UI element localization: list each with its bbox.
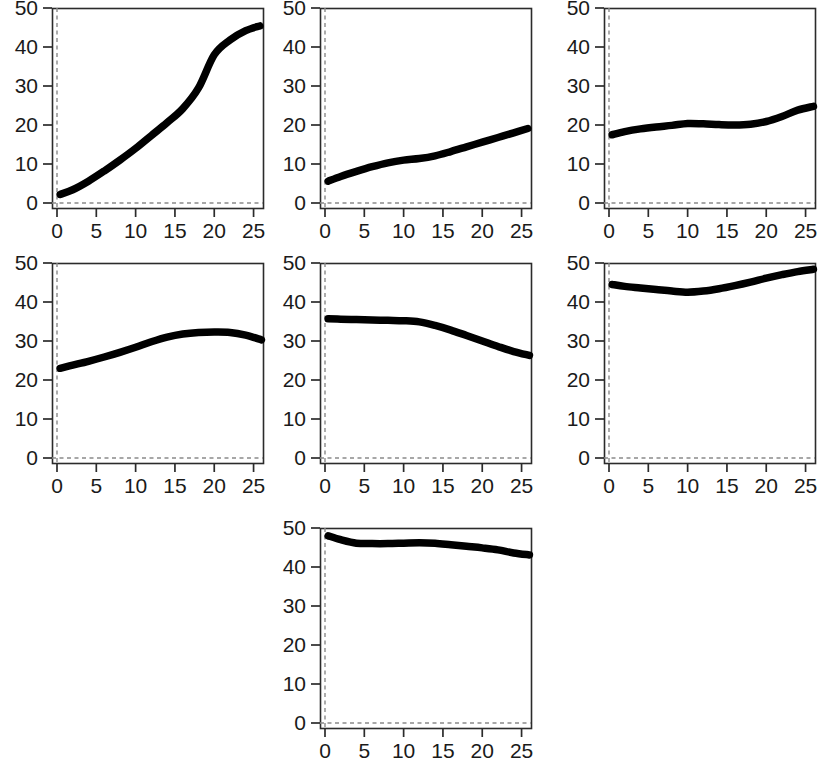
y-tick-label: 40	[15, 290, 38, 313]
y-tick-label: 10	[283, 407, 306, 430]
x-tick-label: 5	[90, 219, 102, 242]
x-tick-label: 10	[676, 219, 699, 242]
y-tick-label: 0	[294, 711, 306, 734]
x-tick-label: 5	[642, 474, 654, 497]
y-tick-label: 20	[283, 633, 306, 656]
plot-frame	[321, 264, 532, 464]
chart-panel-2: 010203040500510152025	[268, 0, 542, 250]
chart-panel-5: 010203040500510152025	[268, 255, 542, 505]
data-curve	[328, 536, 529, 555]
data-curve	[612, 269, 813, 292]
x-tick-label: 20	[203, 219, 226, 242]
y-tick-label: 20	[283, 368, 306, 391]
chart-panel-4: 010203040500510152025	[0, 255, 274, 505]
x-tick-label: 0	[603, 474, 615, 497]
data-curve	[612, 106, 813, 134]
data-curve	[328, 319, 529, 356]
y-tick-label: 20	[283, 113, 306, 136]
plot-frame	[321, 9, 532, 209]
x-tick-label: 20	[471, 474, 494, 497]
x-tick-label: 10	[124, 219, 147, 242]
y-tick-label: 20	[15, 368, 38, 391]
x-tick-label: 15	[431, 474, 454, 497]
y-tick-label: 30	[15, 329, 38, 352]
x-tick-label: 25	[794, 219, 817, 242]
x-tick-label: 15	[163, 219, 186, 242]
y-tick-label: 30	[283, 594, 306, 617]
x-tick-label: 5	[358, 219, 370, 242]
y-tick-label: 50	[15, 0, 38, 19]
y-tick-label: 0	[578, 446, 590, 469]
multi-panel-figure: 0102030405005101520250102030405005101520…	[0, 0, 826, 782]
y-tick-label: 40	[283, 35, 306, 58]
x-tick-label: 15	[431, 739, 454, 762]
x-tick-label: 15	[163, 474, 186, 497]
y-tick-label: 10	[283, 152, 306, 175]
chart-panel-1: 010203040500510152025	[0, 0, 274, 250]
y-tick-label: 0	[578, 191, 590, 214]
x-tick-label: 0	[603, 219, 615, 242]
y-tick-label: 20	[567, 113, 590, 136]
y-tick-label: 40	[567, 290, 590, 313]
x-tick-label: 25	[510, 474, 533, 497]
x-tick-label: 20	[471, 219, 494, 242]
y-tick-label: 40	[283, 555, 306, 578]
data-curve	[328, 129, 528, 182]
y-tick-label: 30	[15, 74, 38, 97]
x-tick-label: 10	[392, 474, 415, 497]
x-tick-label: 15	[715, 474, 738, 497]
chart-panel-6: 010203040500510152025	[552, 255, 826, 505]
data-curve	[60, 332, 261, 368]
y-tick-label: 50	[283, 255, 306, 274]
x-tick-label: 10	[676, 474, 699, 497]
y-tick-label: 20	[567, 368, 590, 391]
x-tick-label: 5	[358, 739, 370, 762]
x-tick-label: 25	[794, 474, 817, 497]
y-tick-label: 0	[26, 191, 38, 214]
x-tick-label: 25	[242, 219, 265, 242]
y-tick-label: 10	[15, 152, 38, 175]
y-tick-label: 30	[283, 329, 306, 352]
y-tick-label: 10	[283, 672, 306, 695]
chart-panel-3: 010203040500510152025	[552, 0, 826, 250]
x-tick-label: 25	[510, 739, 533, 762]
y-tick-label: 0	[294, 191, 306, 214]
x-tick-label: 5	[642, 219, 654, 242]
y-tick-label: 50	[567, 255, 590, 274]
y-tick-label: 30	[567, 74, 590, 97]
data-curve	[60, 26, 260, 194]
y-tick-label: 30	[283, 74, 306, 97]
x-tick-label: 25	[510, 219, 533, 242]
x-tick-label: 15	[431, 219, 454, 242]
y-tick-label: 0	[26, 446, 38, 469]
y-tick-label: 50	[283, 520, 306, 539]
x-tick-label: 0	[51, 474, 63, 497]
x-tick-label: 0	[51, 219, 63, 242]
y-tick-label: 0	[294, 446, 306, 469]
plot-frame	[605, 9, 816, 209]
y-tick-label: 50	[15, 255, 38, 274]
x-tick-label: 15	[715, 219, 738, 242]
x-tick-label: 0	[319, 219, 331, 242]
plot-frame	[321, 529, 532, 729]
x-tick-label: 10	[124, 474, 147, 497]
x-tick-label: 5	[358, 474, 370, 497]
y-tick-label: 20	[15, 113, 38, 136]
chart-panel-7: 010203040500510152025	[268, 520, 542, 770]
y-tick-label: 10	[567, 152, 590, 175]
y-tick-label: 30	[567, 329, 590, 352]
x-tick-label: 20	[203, 474, 226, 497]
y-tick-label: 10	[567, 407, 590, 430]
x-tick-label: 10	[392, 219, 415, 242]
y-tick-label: 40	[15, 35, 38, 58]
y-tick-label: 50	[283, 0, 306, 19]
x-tick-label: 10	[392, 739, 415, 762]
x-tick-label: 0	[319, 739, 331, 762]
x-tick-label: 25	[242, 474, 265, 497]
y-tick-label: 40	[567, 35, 590, 58]
x-tick-label: 20	[471, 739, 494, 762]
x-tick-label: 20	[755, 219, 778, 242]
x-tick-label: 0	[319, 474, 331, 497]
x-tick-label: 20	[755, 474, 778, 497]
x-tick-label: 5	[90, 474, 102, 497]
